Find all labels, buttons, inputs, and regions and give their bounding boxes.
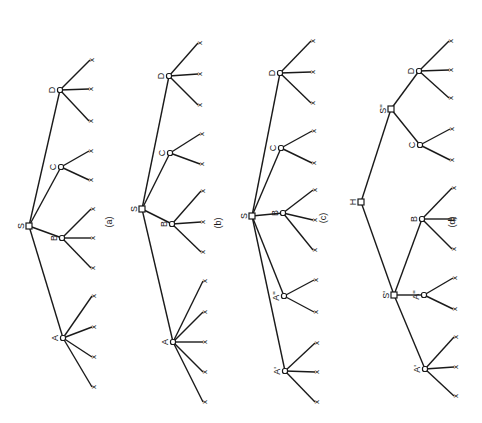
leaf-edge [424, 295, 453, 309]
leaf-marker: x [86, 149, 95, 153]
node-label: C [48, 163, 58, 170]
tree-panel-b: SxxxDxxCxxxBxxxxxA(b) [129, 41, 223, 404]
node-S [139, 206, 145, 212]
node-C [59, 165, 64, 170]
leaf-marker: x [312, 341, 321, 345]
node-A2 [282, 294, 287, 299]
leaf-marker: x [446, 96, 455, 100]
leaf-marker: x [89, 385, 98, 389]
leaf-edge [285, 371, 315, 402]
leaf-edge [419, 71, 449, 98]
panel-caption: (c) [318, 213, 328, 224]
node-label: A'' [411, 290, 421, 300]
edge-S-C [29, 167, 61, 226]
node-label: B [49, 235, 59, 241]
edges [252, 41, 315, 402]
node-C [418, 143, 423, 148]
leaf-marker: x [195, 72, 204, 76]
node-D [58, 88, 63, 93]
leaf-marker: x [89, 294, 98, 298]
leaf-marker: x [446, 39, 455, 43]
leaf-edge [425, 367, 454, 369]
leaf-edge [285, 371, 315, 372]
leaf-edge [169, 76, 198, 105]
leaf-edge [173, 342, 203, 372]
leaf-edge [419, 41, 449, 71]
leaf-edge [62, 209, 91, 238]
node-label: A' [272, 367, 282, 375]
node-S [249, 213, 255, 219]
panel-caption: (a) [104, 216, 114, 227]
leaf-marker: x [200, 340, 209, 344]
leaf-marker: x [308, 101, 317, 105]
leaf-edge [280, 41, 311, 73]
leaf-marker: x [312, 370, 321, 374]
leaf-edge [63, 338, 92, 357]
leaf-marker: x [308, 70, 317, 74]
node-label: C [407, 141, 417, 148]
node-label: A [50, 335, 60, 341]
leaf-edge [170, 134, 200, 153]
panels: SxxxDxxCxxxBxxxxA(a)SxxxDxxCxxxBxxxxxA(b… [16, 39, 460, 404]
leaf-marker: x [447, 158, 456, 162]
node-B [170, 222, 175, 227]
leaf-marker: x [198, 220, 207, 224]
node-C [279, 146, 284, 151]
node-label: C [157, 149, 167, 156]
panel-caption: (d) [447, 216, 457, 227]
leaf-marker: x [449, 186, 458, 190]
edge-S-A2 [252, 216, 284, 296]
leaf-edge [283, 190, 313, 213]
leaf-marker: x [451, 365, 460, 369]
leaf-marker: x [309, 161, 318, 165]
node-C [168, 151, 173, 156]
node-label: C [268, 144, 278, 151]
leaf-marker: x [197, 162, 206, 166]
leaf-marker: x [311, 278, 320, 282]
leaf-marker: x [198, 250, 207, 254]
node-D [417, 69, 422, 74]
leaf-marker: x [449, 247, 458, 251]
leaf-edge [61, 151, 89, 167]
node-H [358, 199, 364, 205]
leaf-marker: x [450, 307, 459, 311]
leaf-marker: x [198, 189, 207, 193]
leaf-marker: x [88, 207, 97, 211]
leaf-edge [172, 191, 201, 224]
tree-panel-a: SxxxDxxCxxxBxxxxA(a) [16, 58, 114, 389]
node-D [278, 71, 283, 76]
leaf-marker: x [310, 248, 319, 252]
leaf-edge [63, 296, 92, 338]
edge-H-S2 [361, 109, 391, 202]
leaf-marker: x [451, 394, 460, 398]
node-label: A' [412, 365, 422, 373]
leaf-edge [60, 89, 89, 90]
leaf-edge [172, 224, 201, 252]
node-B [420, 217, 425, 222]
leaf-edge [173, 281, 203, 342]
edge-S2-D [391, 71, 419, 109]
leaf-marker: x [451, 335, 460, 339]
leaf-edge [422, 188, 452, 219]
leaf-edge [284, 296, 314, 312]
edge-S1-B [394, 219, 422, 295]
edge-S-C [142, 153, 170, 209]
node-A [171, 340, 176, 345]
leaf-marker: x [200, 370, 209, 374]
leaf-marker: x [309, 129, 318, 133]
node-label: S'' [378, 104, 388, 114]
leaf-marker: x [200, 279, 209, 283]
node-label: H [348, 199, 358, 206]
node-label: A [160, 339, 170, 345]
node-label: D [47, 86, 57, 93]
leaf-marker: x [195, 41, 204, 45]
nodes: SxxxDxxCxxxBxxxxA [16, 58, 98, 389]
leaf-edge [425, 369, 454, 396]
edges [361, 41, 454, 396]
leaf-edge [280, 72, 311, 73]
node-D [167, 74, 172, 79]
node-label: D [156, 72, 166, 79]
leaf-edge [60, 60, 90, 90]
edge-S-D [252, 73, 280, 216]
leaf-edge [170, 153, 200, 164]
